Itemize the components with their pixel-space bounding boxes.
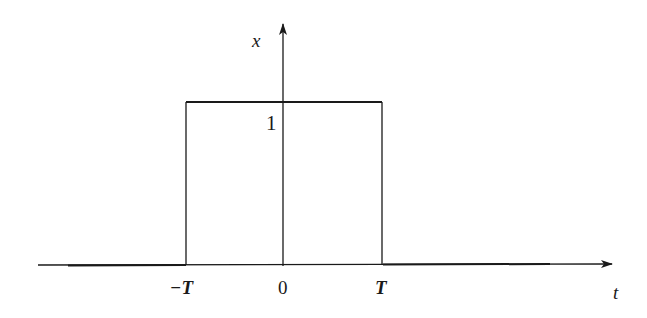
y-axis-label: x xyxy=(252,31,260,50)
signal-left-zero xyxy=(68,265,186,266)
height-tick-label: 1 xyxy=(266,113,277,134)
signal-right-zero xyxy=(383,264,550,265)
pos-T-tick-label: T xyxy=(375,278,387,297)
neg-T-tick-label: −T xyxy=(170,278,193,297)
zero-tick-label: 0 xyxy=(278,278,288,297)
x-axis-label: t xyxy=(613,283,618,302)
pulse-diagram xyxy=(0,0,647,318)
